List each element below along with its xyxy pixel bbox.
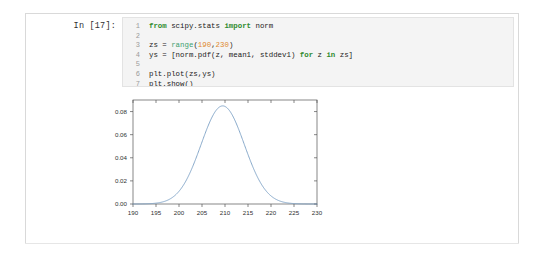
x-tick-label: 190 [128,209,139,216]
line-number: 2 [127,32,140,42]
x-tick-label: 225 [289,209,300,216]
line-number: 3 [127,41,140,51]
line-number: 6 [127,70,140,80]
y-tick-label: 0.08 [115,108,128,115]
page-bottom-edge [25,243,519,244]
axes-frame [133,100,317,204]
y-tick-label: 0.06 [115,131,128,138]
x-tick-label: 195 [151,209,162,216]
y-tick-label: 0.00 [115,200,128,207]
input-prompt-label: In [17]: [56,21,116,31]
plot-canvas: 1901952002052102152202252300.000.020.040… [89,92,324,232]
code-text: zs = range(190,230) [149,41,233,51]
y-tick-label: 0.02 [115,177,128,184]
x-tick-label: 215 [243,209,254,216]
x-tick-label: 205 [197,209,208,216]
matplotlib-figure: 1901952002052102152202252300.000.020.040… [89,92,324,232]
cell-output-area: 1901952002052102152202252300.000.020.040… [26,92,520,244]
code-text: ys = [norm.pdf(z, mean1, stddev1) for z … [149,51,353,61]
notebook-page: In [17]: 1from scipy.stats import norm23… [25,13,519,244]
x-tick-label: 200 [174,209,185,216]
y-tick-label: 0.04 [115,154,128,161]
code-text: from scipy.stats import norm [149,22,273,32]
line-number: 7 [127,80,140,87]
data-line-norm-pdf [133,106,317,204]
line-number: 1 [127,22,140,32]
code-cell[interactable]: In [17]: 1from scipy.stats import norm23… [26,14,520,90]
code-editor[interactable]: 1from scipy.stats import norm23zs = rang… [122,17,514,87]
x-tick-label: 210 [220,209,231,216]
code-text: plt.plot(zs,ys) [149,70,216,80]
code-text: plt.show() [149,80,193,87]
x-tick-label: 220 [266,209,277,216]
line-number: 5 [127,60,140,70]
line-number: 4 [127,51,140,61]
x-tick-label: 230 [312,209,323,216]
